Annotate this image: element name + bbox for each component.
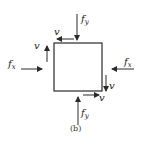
fx-right-label: fx [123, 56, 132, 69]
figure-caption: (b) [70, 124, 81, 133]
v-right-label: v [109, 80, 115, 91]
element-square [54, 43, 102, 91]
v-bottom-label: v [99, 92, 105, 103]
v-top-label: v [54, 26, 60, 37]
fy-top-label: fy [80, 13, 90, 26]
fx-left-label: fx [7, 58, 16, 71]
fy-bottom-label: fy [80, 107, 90, 120]
v-left-label: v [34, 40, 40, 51]
stress-element-diagram: fy v v fx fx v v fy (b) [0, 0, 142, 144]
